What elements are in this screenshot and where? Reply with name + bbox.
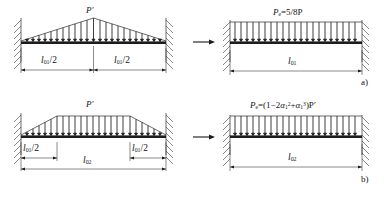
dim-sub-1d: 02 [291,156,297,162]
dimension-label-overall-span: l02 [83,156,92,166]
row-a-left-panel: P′ l01/2 l01/2 [0,0,193,99]
eq-rhs-0: =5/8P [281,7,303,17]
row-a-right-panel: Pe=5/8P l01 a) [193,0,385,99]
dim-r-0a: /2 [50,55,57,65]
dimension-label-right-half: l01/2 [114,56,130,66]
figure-row-b: P′ l01/2 l01/2 l02 [0,99,385,198]
support-fixed-left [14,113,21,164]
support-fixed-left [223,115,230,166]
load-arrows [234,116,357,136]
dim-sub-0c: 01 [291,60,297,66]
row-a-left-drawing [0,0,193,99]
load-arrows [26,18,162,41]
support-fixed-left [223,20,230,71]
dim-sub-1c: 02 [86,159,92,165]
figure-canvas: P′ l01/2 l01/2 [0,0,385,199]
dim-r-0b: /2 [123,55,130,65]
support-fixed-right [166,113,173,164]
dimension-label-left-half: l01/2 [41,56,57,66]
figure-row-a: P′ l01/2 l01/2 [0,0,385,99]
support-fixed-left [14,18,21,69]
beam-member [230,41,362,44]
beam-member [21,135,166,138]
beam-member [230,135,362,138]
equation-label-pe-alpha: Pe=(1−2α12+α13)P′ [250,101,316,111]
support-fixed-right [166,18,173,69]
load-arrows [26,116,162,136]
eq-close-1: )P′ [306,100,316,110]
load-label-p-prime: P′ [86,100,93,109]
panel-tag-a: a) [361,78,368,87]
dim-r-1b: /2 [141,143,148,153]
transform-arrow [193,134,215,139]
dimension-label-span: l02 [288,153,297,163]
support-fixed-right [362,115,369,166]
transform-arrow [193,39,215,44]
load-label-p-prime: P′ [86,6,93,15]
equation-label-pe-uniform: Pe=5/8P [273,8,303,18]
row-b-right-drawing [193,99,385,198]
dimension-label-left-half: l01/2 [23,144,39,154]
row-b-right-panel: Pe=(1−2α12+α13)P′ l02 b) [193,99,385,198]
load-envelope-trapezoidal [21,116,166,135]
dim-r-1a: /2 [32,143,39,153]
row-b-left-panel: P′ l01/2 l01/2 l02 [0,99,193,198]
dimension-label-span: l01 [288,57,297,67]
eq-open-1: =(1−2 [258,100,280,110]
dimension-label-right-half: l01/2 [132,144,148,154]
dimension-line-overall-span [21,167,166,170]
support-fixed-right [362,20,369,71]
panel-tag-b: b) [361,175,369,184]
load-arrows [234,22,357,42]
